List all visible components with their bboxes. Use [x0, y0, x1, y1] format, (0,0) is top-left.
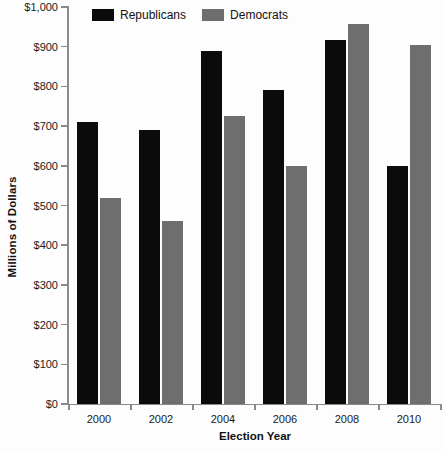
x-axis-tick: [130, 404, 132, 410]
y-axis-title-label: Millions of Dollars: [6, 176, 18, 277]
chart-legend: Republicans Democrats: [92, 8, 288, 22]
bar-republicans-2008: [325, 40, 346, 404]
y-axis-tick: [61, 284, 68, 286]
bar-democrats-2008: [348, 24, 369, 404]
x-axis-tick-label: 2002: [131, 413, 191, 425]
bar-republicans-2010: [387, 166, 408, 404]
y-axis-title: Millions of Dollars: [2, 0, 22, 453]
x-axis-tick-label: 2004: [193, 413, 253, 425]
x-axis-tick: [254, 404, 256, 410]
y-axis-tick: [61, 244, 68, 246]
legend-label-republicans: Republicans: [120, 8, 186, 22]
x-axis-tick-label: 2008: [317, 413, 377, 425]
plot-area: [68, 7, 440, 404]
y-axis-tick: [61, 205, 68, 207]
x-axis-tick: [378, 404, 380, 410]
y-axis-tick-label: $700: [2, 120, 58, 132]
y-axis-tick-label: $1,000: [2, 1, 58, 13]
x-axis-title-label: Election Year: [219, 430, 291, 442]
y-axis-tick: [61, 364, 68, 366]
bar-democrats-2002: [162, 221, 183, 404]
x-axis-tick-label: 2010: [379, 413, 439, 425]
x-axis-tick: [316, 404, 318, 410]
y-axis-tick-label: $800: [2, 80, 58, 92]
y-axis-tick: [61, 86, 68, 88]
y-axis-tick-label: $900: [2, 41, 58, 53]
y-axis-tick: [61, 324, 68, 326]
x-axis-tick-label: 2006: [255, 413, 315, 425]
bar-republicans-2006: [263, 90, 284, 404]
bar-democrats-2004: [224, 116, 245, 404]
bar-democrats-2006: [286, 166, 307, 404]
x-axis-tick: [440, 404, 442, 410]
legend-swatch-democrats-icon: [202, 9, 224, 21]
bar-republicans-2002: [139, 130, 160, 404]
y-axis-tick: [61, 403, 68, 405]
y-axis-tick-label: $600: [2, 160, 58, 172]
bar-republicans-2004: [201, 51, 222, 404]
y-axis-tick-label: $400: [2, 239, 58, 251]
y-axis-tick-label: $200: [2, 319, 58, 331]
y-axis-tick-label: $100: [2, 358, 58, 370]
bar-republicans-2000: [77, 122, 98, 404]
y-axis-tick-label: $500: [2, 200, 58, 212]
y-axis-tick-label: $0: [2, 398, 58, 410]
y-axis-tick: [61, 46, 68, 48]
x-axis-tick: [68, 404, 70, 410]
y-axis-tick-label: $300: [2, 279, 58, 291]
legend-swatch-republicans-icon: [92, 9, 114, 21]
legend-label-democrats: Democrats: [230, 8, 288, 22]
bar-democrats-2000: [100, 198, 121, 404]
x-axis-tick: [192, 404, 194, 410]
y-axis-tick: [61, 165, 68, 167]
y-axis-tick: [61, 125, 68, 127]
bar-chart: Millions of Dollars $0$100$200$300$400$5…: [0, 0, 446, 453]
legend-item-republicans: Republicans: [92, 8, 186, 22]
y-axis-tick: [61, 6, 68, 8]
x-axis-title: Election Year: [68, 430, 442, 442]
bar-democrats-2010: [410, 45, 431, 404]
x-axis-tick-label: 2000: [69, 413, 129, 425]
legend-item-democrats: Democrats: [202, 8, 288, 22]
